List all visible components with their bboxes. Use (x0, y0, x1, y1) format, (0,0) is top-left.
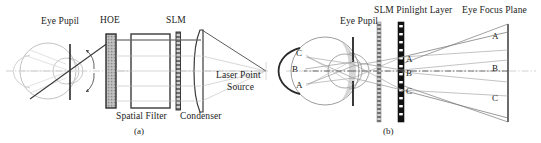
figure-vector-drawing (0, 0, 541, 143)
focus-plane-point-label-c: C (492, 93, 498, 103)
label-eye-pupil-a: Eye Pupil (41, 16, 79, 27)
label-spatial-filter: Spatial Filter (116, 111, 167, 122)
label-slm-a: SLM (166, 15, 186, 26)
focus-plane-point-label-a: A (492, 31, 499, 41)
label-eye-focus-plane: Eye Focus Plane (462, 5, 527, 16)
eye-internal-rays-a (22, 50, 70, 93)
label-condenser: Condenser (180, 111, 222, 122)
pinlight-point-label-a: A (406, 54, 413, 64)
caption-panel-a: (a) (134, 126, 144, 136)
label-slm-pinlight-layer: SLM Pinlight Layer (374, 5, 452, 16)
retina-point-label-a: A (296, 80, 303, 90)
chief-ray-a (30, 40, 112, 99)
label-eye-pupil-b: Eye Pupil (340, 16, 378, 27)
hoe-plate (106, 34, 116, 108)
retina-point-label-c: C (296, 48, 302, 58)
figure-container: Eye Pupil HOE SLM Spatial Filter Condens… (0, 0, 541, 143)
beam-edge-top-source-a (202, 30, 266, 71)
label-hoe: HOE (100, 15, 120, 26)
caption-panel-b: (b) (383, 126, 394, 136)
focus-plane-point-label-b: B (492, 63, 498, 73)
pinlight-point-label-c: C (406, 86, 412, 96)
pinlight-point-label-b: B (406, 68, 412, 78)
label-laser-point-source-line2: Source (227, 82, 254, 94)
retina-arc-a (13, 55, 30, 88)
eye-crossing-rays-b (306, 55, 353, 86)
slm-bar-b (377, 22, 381, 122)
retina-point-label-b: B (292, 64, 298, 74)
label-laser-point-source-line1: Laser Point (216, 70, 261, 82)
